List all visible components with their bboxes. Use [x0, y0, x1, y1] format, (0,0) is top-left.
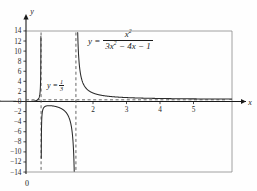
function-graph-figure: 1412108642−2−4−6−8−10−12−1402345yx0 y = …: [0, 0, 257, 191]
y-axis-arrow: [23, 14, 28, 20]
y-tick-label: −4: [14, 117, 22, 126]
x-tick-group: 2345: [91, 102, 196, 114]
y-tick-label: 12: [14, 37, 22, 46]
y-tick-label: −10: [10, 147, 22, 156]
x-tick-label: 3: [125, 105, 129, 114]
y-tick-label: 4: [18, 77, 22, 86]
x-axis-label: x: [247, 98, 252, 107]
equation-numerator: x2: [121, 30, 136, 39]
y-tick-label: 14: [14, 26, 22, 35]
y-tick-label: 10: [14, 47, 22, 56]
y-tick-label: −2: [14, 107, 22, 116]
y-tick-label: 2: [18, 87, 22, 96]
asymptote-label-fraction: 1 3: [59, 79, 64, 92]
y-tick-label: 6: [18, 67, 22, 76]
y-axis-label: y: [29, 7, 34, 16]
y-tick-label: −14: [10, 168, 22, 177]
equation-denominator: 3x2 − 4x − 1: [103, 42, 152, 51]
curve-middle-branch: [41, 106, 74, 171]
y-tick-label: −12: [10, 157, 22, 166]
equation-annotation: y = x2 3x2 − 4x − 1: [88, 30, 153, 52]
asymptote-label-prefix: y =: [47, 81, 58, 90]
origin-label: 0: [25, 179, 29, 188]
y-tick-label: −6: [14, 127, 22, 136]
equation-lhs: y =: [88, 36, 100, 46]
x-tick-label: 5: [192, 105, 196, 114]
x-axis-arrow: [241, 99, 246, 104]
asymptote-denominator: 3: [59, 86, 64, 92]
x-tick-label: 4: [158, 105, 162, 114]
y-tick-label: −8: [14, 137, 22, 146]
x-tick-label: 2: [91, 105, 95, 114]
equation-fraction: x2 3x2 − 4x − 1: [103, 30, 152, 52]
horizontal-asymptote-label: y = 1 3: [47, 79, 64, 92]
y-tick-label: 8: [18, 57, 22, 66]
